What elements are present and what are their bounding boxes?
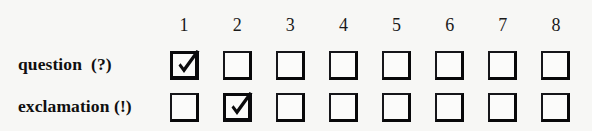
cell-question-7 xyxy=(479,51,527,80)
column-header-6: 6 xyxy=(426,16,474,34)
column-number-label: 3 xyxy=(286,16,295,34)
checkmark-icon xyxy=(171,48,205,82)
column-header-4: 4 xyxy=(319,16,367,34)
row-cells-exclamation xyxy=(160,93,592,122)
matrix-row-question: question (?) xyxy=(0,44,592,86)
checkbox-exclamation-2[interactable] xyxy=(223,93,252,122)
column-number-label: 4 xyxy=(339,16,348,34)
checkbox-exclamation-5[interactable] xyxy=(382,93,411,122)
column-number-label: 1 xyxy=(180,16,189,34)
checkbox-question-5[interactable] xyxy=(382,51,411,80)
cell-exclamation-2 xyxy=(213,93,261,122)
row-label-question: question (?) xyxy=(0,56,160,74)
checkbox-exclamation-7[interactable] xyxy=(488,93,517,122)
checkbox-question-3[interactable] xyxy=(276,51,305,80)
checkbox-exclamation-3[interactable] xyxy=(276,93,305,122)
column-number-label: 2 xyxy=(233,16,242,34)
checkmark-icon xyxy=(224,90,258,124)
column-header-3: 3 xyxy=(266,16,314,34)
checkbox-question-7[interactable] xyxy=(488,51,517,80)
column-number-label: 5 xyxy=(392,16,401,34)
cell-question-1 xyxy=(160,51,208,80)
cell-exclamation-6 xyxy=(426,93,474,122)
cell-question-4 xyxy=(319,51,367,80)
cell-question-8 xyxy=(532,51,580,80)
cell-exclamation-8 xyxy=(532,93,580,122)
checkbox-question-2[interactable] xyxy=(223,51,252,80)
checkbox-matrix: 1 2 3 4 5 6 7 8 ques xyxy=(0,0,592,131)
cell-question-6 xyxy=(426,51,474,80)
cell-exclamation-3 xyxy=(266,93,314,122)
column-header-1: 1 xyxy=(160,16,208,34)
checkbox-question-8[interactable] xyxy=(541,51,570,80)
cell-exclamation-7 xyxy=(479,93,527,122)
row-cells-question xyxy=(160,51,592,80)
column-header-7: 7 xyxy=(479,16,527,34)
column-header-5: 5 xyxy=(373,16,421,34)
checkbox-exclamation-6[interactable] xyxy=(435,93,464,122)
checkbox-question-4[interactable] xyxy=(329,51,358,80)
column-header-row: 1 2 3 4 5 6 7 8 xyxy=(0,4,592,46)
row-label-exclamation: exclamation (!) xyxy=(0,98,160,116)
cell-question-2 xyxy=(213,51,261,80)
cell-exclamation-1 xyxy=(160,93,208,122)
column-number-label: 8 xyxy=(551,16,560,34)
column-header-2: 2 xyxy=(213,16,261,34)
cell-question-5 xyxy=(373,51,421,80)
matrix-row-exclamation: exclamation (!) xyxy=(0,86,592,128)
checkbox-exclamation-1[interactable] xyxy=(170,93,199,122)
cell-exclamation-4 xyxy=(319,93,367,122)
cell-exclamation-5 xyxy=(373,93,421,122)
column-number-label: 7 xyxy=(498,16,507,34)
column-header-cells: 1 2 3 4 5 6 7 8 xyxy=(160,16,592,34)
checkbox-exclamation-8[interactable] xyxy=(541,93,570,122)
checkbox-question-6[interactable] xyxy=(435,51,464,80)
column-number-label: 6 xyxy=(445,16,454,34)
cell-question-3 xyxy=(266,51,314,80)
checkbox-question-1[interactable] xyxy=(170,51,199,80)
checkbox-exclamation-4[interactable] xyxy=(329,93,358,122)
column-header-8: 8 xyxy=(532,16,580,34)
